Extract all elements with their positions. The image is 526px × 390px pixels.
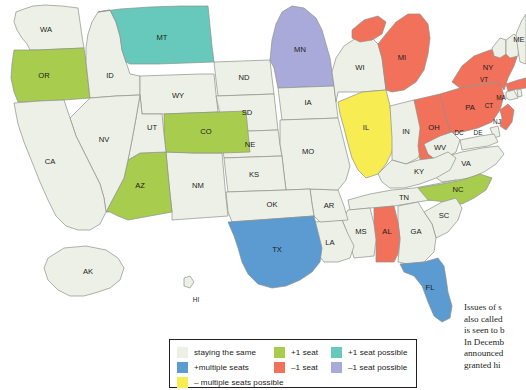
us-choropleth-map[interactable]: WAORIDMTWYNDSDNEMNIAWIMIILINOHPANYNJMACT… xyxy=(0,0,526,330)
state-vt[interactable] xyxy=(492,38,506,58)
legend-item-staying-the-same[interactable]: staying the same xyxy=(177,347,274,358)
state-label-co: CO xyxy=(200,127,211,136)
state-label-sc: SC xyxy=(439,211,450,220)
state-label-hi: HI xyxy=(193,296,200,303)
legend-label: – multiple seats possible xyxy=(194,378,283,387)
state-mo[interactable] xyxy=(280,118,350,190)
state-nj[interactable] xyxy=(500,104,514,130)
state-label-la: LA xyxy=(325,238,335,247)
state-label-nv: NV xyxy=(99,135,110,144)
state-label-ct: CT xyxy=(485,102,494,109)
state-label-ak: AK xyxy=(83,267,93,276)
state-label-ga: GA xyxy=(411,227,423,236)
state-label-nm: NM xyxy=(192,181,204,190)
state-label-ut: UT xyxy=(147,123,157,132)
state-label-tx: TX xyxy=(272,245,282,254)
state-label-mt: MT xyxy=(157,33,168,42)
state-label-ia: IA xyxy=(304,98,312,107)
legend-swatch-minus-one-seat xyxy=(274,362,285,373)
state-ri[interactable] xyxy=(517,89,522,97)
state-label-az: AZ xyxy=(135,181,145,190)
legend-item-minus-one-seat-possible[interactable]: –1 seat possible xyxy=(331,362,407,373)
legend-item-plus-one-seat[interactable]: +1 seat xyxy=(274,347,331,358)
legend-row: – multiple seats possible xyxy=(177,375,410,389)
state-ct[interactable] xyxy=(506,90,518,100)
state-label-al: AL xyxy=(382,227,391,236)
state-label-nj: NJ xyxy=(493,118,501,125)
state-label-ky: KY xyxy=(414,167,424,176)
state-label-sd: SD xyxy=(242,108,253,117)
article-text-line: is seen to b xyxy=(464,325,526,337)
state-hi[interactable] xyxy=(184,276,194,288)
legend-swatch-plus-one-seat-possible xyxy=(331,347,342,358)
legend-swatch-minus-one-seat-possible xyxy=(331,362,342,373)
state-label-mo: MO xyxy=(302,147,314,156)
state-or[interactable] xyxy=(11,48,90,102)
legend-label: staying the same xyxy=(194,348,256,357)
state-label-de: DE xyxy=(474,129,483,136)
article-text-line: granted hi xyxy=(464,360,526,372)
article-text-line: announced xyxy=(464,348,526,360)
state-label-mn: MN xyxy=(294,45,306,54)
state-label-wa: WA xyxy=(40,25,53,34)
state-label-me: ME xyxy=(513,35,524,44)
state-label-wv: WV xyxy=(434,143,447,152)
state-label-vt: VT xyxy=(480,76,488,83)
legend-swatch-staying-the-same xyxy=(177,347,188,358)
legend-label: –1 seat possible xyxy=(348,363,407,372)
state-label-id: ID xyxy=(106,71,114,80)
state-label-ca: CA xyxy=(45,157,56,166)
article-body-text: Issues of salso calledis seen to bIn Dec… xyxy=(464,302,526,390)
legend-item-plus-multiple-seats[interactable]: +multiple seats xyxy=(177,362,274,373)
state-label-nc: NC xyxy=(453,185,464,194)
legend-row: staying the same+1 seat+1 seat possible xyxy=(177,345,410,359)
state-label-ok: OK xyxy=(267,200,278,209)
legend-item-plus-one-seat-possible[interactable]: +1 seat possible xyxy=(331,347,408,358)
state-label-va: VA xyxy=(461,159,472,168)
article-text-line: Issues of s xyxy=(464,302,526,314)
state-label-ny: NY xyxy=(483,63,494,72)
state-label-ma: MA xyxy=(496,94,506,101)
legend-item-minus-one-seat[interactable]: –1 seat xyxy=(274,362,331,373)
us-map-svg[interactable]: WAORIDMTWYNDSDNEMNIAWIMIILINOHPANYNJMACT… xyxy=(0,0,526,330)
state-label-fl: FL xyxy=(426,283,435,292)
legend-label: +1 seat possible xyxy=(348,348,408,357)
legend-label: +multiple seats xyxy=(194,363,249,372)
state-label-dc: DC xyxy=(454,129,464,136)
state-label-or: OR xyxy=(38,71,50,80)
article-text-line: In Decemb xyxy=(464,337,526,349)
state-label-il: IL xyxy=(363,123,369,132)
legend-label: +1 seat xyxy=(291,348,318,357)
state-label-ne: NE xyxy=(245,140,256,149)
state-label-ms: MS xyxy=(355,227,366,236)
legend-row: +multiple seats–1 seat–1 seat possible xyxy=(177,360,410,374)
state-label-ks: KS xyxy=(249,170,259,179)
state-label-tn: TN xyxy=(399,193,409,202)
legend-swatch-minus-multiple-seats-possible xyxy=(177,377,188,388)
state-label-mi: MI xyxy=(398,53,406,62)
state-label-oh: OH xyxy=(428,123,439,132)
legend-swatch-plus-multiple-seats xyxy=(177,362,188,373)
state-label-ar: AR xyxy=(324,201,335,210)
state-label-in: IN xyxy=(402,127,410,136)
state-ma[interactable] xyxy=(506,78,526,91)
legend-swatch-plus-one-seat xyxy=(274,347,285,358)
article-text-line: also called xyxy=(464,314,526,326)
state-label-wi: WI xyxy=(355,63,364,72)
state-label-pa: PA xyxy=(465,103,476,112)
state-label-nd: ND xyxy=(239,73,250,82)
screenshot-root: WAORIDMTWYNDSDNEMNIAWIMIILINOHPANYNJMACT… xyxy=(0,0,526,390)
state-label-wy: WY xyxy=(172,91,184,100)
legend-item-minus-multiple-seats-possible[interactable]: – multiple seats possible xyxy=(177,377,283,388)
map-legend: staying the same+1 seat+1 seat possible+… xyxy=(169,339,417,388)
legend-label: –1 seat xyxy=(291,363,318,372)
